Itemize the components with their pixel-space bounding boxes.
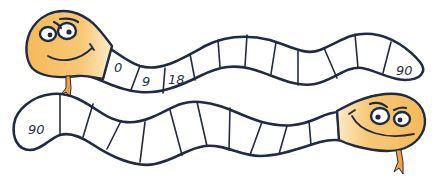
top-snake-body — [85, 34, 423, 93]
top-snake-head — [26, 11, 112, 97]
bottom-snake: 90 — [14, 94, 425, 174]
bottom-snake-body — [14, 94, 360, 165]
bottom-divider — [229, 108, 230, 150]
pupil-icon — [398, 118, 403, 123]
top-cell-0: 0 — [114, 60, 122, 75]
snake-puzzle: 0 9 18 90 — [0, 0, 440, 184]
bottom-cell-90: 90 — [28, 122, 45, 137]
top-snake: 0 9 18 90 — [26, 11, 423, 97]
pupil-icon — [48, 33, 53, 38]
snake-head-icon — [26, 11, 112, 79]
bottom-snake-head — [337, 94, 425, 174]
top-cell-90: 90 — [396, 63, 413, 78]
pupil-icon — [66, 29, 71, 34]
top-cell-9: 9 — [142, 74, 150, 89]
tongue-icon — [394, 150, 403, 174]
pupil-icon — [375, 114, 380, 119]
top-cell-18: 18 — [168, 72, 185, 87]
